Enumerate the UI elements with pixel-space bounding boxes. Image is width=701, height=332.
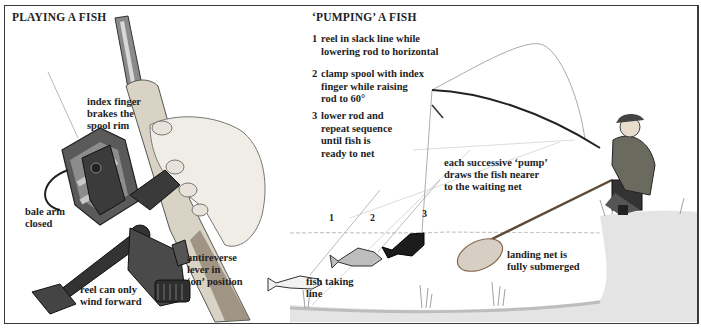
step-line: lowering rod to horizontal <box>321 46 438 59</box>
step-line: reel in slack line while <box>321 33 438 46</box>
label-line: index finger <box>87 96 141 108</box>
label-line: bale arm <box>25 206 65 218</box>
label-line: fish taking <box>306 276 354 288</box>
label-line: line <box>306 288 354 300</box>
step-line: lower rod and <box>321 110 392 123</box>
step-number: 1 <box>312 33 317 46</box>
step-3: 3 lower rod and repeat sequence until fi… <box>312 110 392 160</box>
step-2: 2 clamp spool with index finger while ra… <box>312 68 424 106</box>
label-line: antireverse <box>187 252 243 264</box>
stage-marker-2: 2 <box>370 212 375 223</box>
label-line: each successive ‘pump’ <box>444 157 548 169</box>
leader-line <box>48 72 78 138</box>
label-bale-arm: bale arm closed <box>25 206 65 230</box>
step-line: ready to net <box>321 148 392 161</box>
step-number: 2 <box>312 68 317 81</box>
label-line: brakes the <box>87 108 141 120</box>
left-panel-title: PLAYING A FISH <box>12 11 106 23</box>
label-line: closed <box>25 218 65 230</box>
label-line: fully submerged <box>507 261 580 273</box>
label-line: reel can only <box>80 284 142 296</box>
label-line: draws the fish nearer <box>444 169 548 181</box>
right-panel-title: ‘PUMPING’ A FISH <box>312 11 417 23</box>
label-landing-net: landing net is fully submerged <box>507 249 580 273</box>
label-fish-taking-line: fish taking line <box>306 276 354 300</box>
label-line: to the waiting net <box>444 181 548 193</box>
angler-illustration <box>605 114 655 215</box>
label-line: ‘on’ position <box>187 276 243 288</box>
label-pump-note: each successive ‘pump’ draws the fish ne… <box>444 157 548 193</box>
label-line: wind forward <box>80 296 142 308</box>
step-line: repeat sequence <box>321 123 392 136</box>
step-line: rod to 60° <box>321 93 424 106</box>
step-number: 3 <box>312 110 317 123</box>
stage-marker-3: 3 <box>422 208 427 219</box>
label-antireverse-lever: antireverse lever in ‘on’ position <box>187 252 243 288</box>
step-line: finger while raising <box>321 81 424 94</box>
label-reel-forward: reel can only wind forward <box>80 284 142 308</box>
step-line: until fish is <box>321 135 392 148</box>
label-line: lever in <box>187 264 243 276</box>
label-index-finger: index finger brakes the spool rim <box>87 96 141 132</box>
stage-marker-1: 1 <box>329 212 334 223</box>
step-line: clamp spool with index <box>321 68 424 81</box>
label-line: landing net is <box>507 249 580 261</box>
step-1: 1 reel in slack line while lowering rod … <box>312 33 438 58</box>
label-line: spool rim <box>87 120 141 132</box>
